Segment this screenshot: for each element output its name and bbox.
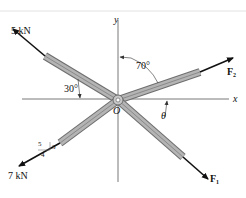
- origin-label: O: [113, 106, 120, 116]
- force-diagram: [0, 0, 246, 198]
- angle-theta-label: θ: [161, 111, 166, 121]
- slope-hyp: 5: [38, 141, 42, 148]
- force-7kn-label: 7 kN: [8, 171, 28, 181]
- y-axis-label: y: [114, 15, 118, 25]
- member-lower-right: [118, 100, 183, 157]
- arrow-f1: [183, 157, 208, 179]
- x-axis-label: x: [233, 94, 237, 104]
- force-5kn-label: 5 kN: [11, 26, 31, 36]
- angle-70-label: 70°: [136, 61, 150, 71]
- member-lower-left: [60, 100, 118, 143]
- slope-rise: 3: [52, 144, 56, 151]
- slope-run: 4: [41, 152, 45, 159]
- f1-subscript: 1: [216, 179, 219, 185]
- angle-30-indicator: [78, 79, 80, 98]
- force-f1-label: F1: [210, 174, 219, 185]
- member-upper-right: [118, 72, 200, 100]
- member-upper-left: [45, 56, 118, 100]
- angle-30-label: 30°: [64, 84, 78, 94]
- force-f2-label: F2: [227, 67, 236, 78]
- f2-subscript: 2: [233, 72, 236, 78]
